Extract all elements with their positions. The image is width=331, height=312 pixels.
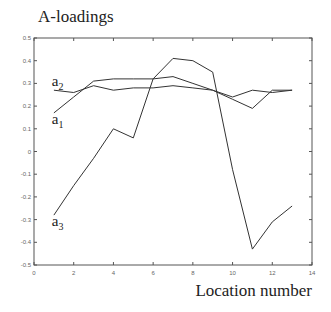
- caption-cutoff: [0, 304, 200, 312]
- x-tick-label: 8: [191, 270, 195, 276]
- x-tick-label: 6: [151, 270, 155, 276]
- axes: 0.50.40.30.20.10-0.1-0.2-0.3-0.4-0.50246…: [21, 35, 316, 276]
- series-label-a1: a1: [52, 111, 64, 130]
- y-tick-label: -0.1: [21, 171, 32, 177]
- x-axis-label: Location number: [195, 281, 312, 300]
- plot-frame: [34, 38, 312, 265]
- series-label-subscript: 1: [59, 119, 64, 130]
- y-tick-label: 0.4: [23, 58, 32, 64]
- x-tick-label: 10: [229, 270, 236, 276]
- series-group: [54, 58, 292, 249]
- chart: A-loadings 0.50.40.30.20.10-0.1-0.2-0.3-…: [0, 0, 331, 312]
- x-tick-label: 4: [112, 270, 116, 276]
- y-tick-label: -0.2: [21, 194, 32, 200]
- y-tick-label: 0.3: [23, 80, 32, 86]
- y-tick-label: -0.5: [21, 262, 32, 268]
- x-tick-label: 14: [309, 270, 316, 276]
- y-tick-label: 0: [28, 149, 32, 155]
- series-line-a2: [54, 86, 292, 97]
- x-tick-label: 2: [72, 270, 76, 276]
- chart-title: A-loadings: [38, 7, 114, 26]
- series-line-a1: [54, 77, 292, 113]
- x-tick-label: 12: [269, 270, 276, 276]
- y-tick-label: 0.5: [23, 35, 32, 41]
- x-tick-label: 0: [32, 270, 36, 276]
- y-tick-label: -0.3: [21, 217, 32, 223]
- y-tick-label: 0.2: [23, 103, 32, 109]
- y-tick-label: -0.4: [21, 239, 32, 245]
- series-label-subscript: 2: [59, 81, 64, 92]
- series-label-a2: a2: [52, 73, 64, 92]
- y-tick-label: 0.1: [23, 126, 32, 132]
- series-label-subscript: 3: [59, 221, 64, 232]
- series-label-a3: a3: [52, 213, 64, 232]
- series-annotations: a1a2a3: [52, 73, 64, 233]
